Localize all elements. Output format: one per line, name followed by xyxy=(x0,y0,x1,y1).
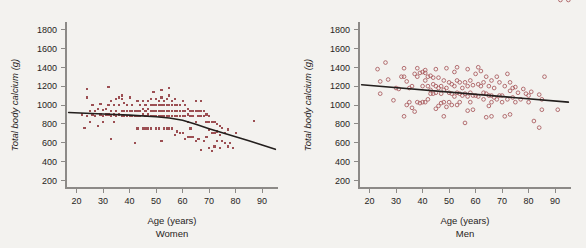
x-tick-label: 70 xyxy=(497,196,507,206)
data-point xyxy=(163,104,165,106)
data-point xyxy=(211,132,213,134)
data-point xyxy=(160,104,162,106)
data-point xyxy=(458,100,462,104)
data-point xyxy=(179,115,181,117)
data-point xyxy=(168,94,170,96)
data-point xyxy=(216,123,218,125)
data-point xyxy=(144,104,146,106)
x-axis-ticks: 2030405060708090 xyxy=(72,188,268,206)
x-tick-label: 50 xyxy=(444,196,454,206)
data-point xyxy=(466,95,470,99)
data-point xyxy=(376,67,380,71)
x-tick-label: 30 xyxy=(391,196,401,206)
data-point xyxy=(174,104,176,106)
y-tick-label: 1800 xyxy=(37,25,57,35)
data-point xyxy=(466,109,470,113)
y-tick-label: 1800 xyxy=(330,25,350,35)
data-point xyxy=(121,98,123,100)
data-point xyxy=(94,115,96,117)
data-point xyxy=(115,98,117,100)
data-point xyxy=(155,98,157,100)
data-point xyxy=(134,142,136,144)
data-point xyxy=(559,0,563,2)
x-tick-label: 40 xyxy=(125,196,135,206)
data-point xyxy=(131,110,133,112)
data-point xyxy=(163,100,165,102)
data-point xyxy=(184,110,186,112)
data-point xyxy=(150,104,152,106)
data-point xyxy=(423,79,427,83)
data-point xyxy=(219,125,221,127)
data-point xyxy=(139,104,141,106)
data-point xyxy=(537,126,541,130)
data-point xyxy=(192,136,194,138)
data-point xyxy=(402,114,406,118)
data-point xyxy=(490,100,494,104)
data-point xyxy=(500,100,504,104)
data-point xyxy=(126,110,128,112)
data-point xyxy=(203,140,205,142)
data-point xyxy=(205,121,207,123)
x-tick-label: 30 xyxy=(98,196,108,206)
data-point xyxy=(166,104,168,106)
data-point xyxy=(166,98,168,100)
data-point xyxy=(415,66,419,70)
chart-panel-women: 2004006008001000120014001600180020304050… xyxy=(0,0,293,248)
data-point xyxy=(487,84,491,88)
data-point xyxy=(434,67,438,71)
data-point xyxy=(184,104,186,106)
data-point xyxy=(484,75,488,79)
data-point xyxy=(123,110,125,112)
data-point xyxy=(129,110,131,112)
figure-container: 2004006008001000120014001600180020304050… xyxy=(0,0,586,248)
data-point xyxy=(110,110,112,112)
data-point xyxy=(450,103,454,107)
data-point xyxy=(166,110,168,112)
data-point xyxy=(474,72,478,76)
data-point xyxy=(211,150,213,152)
data-point xyxy=(83,127,85,129)
data-point xyxy=(174,110,176,112)
data-point xyxy=(184,138,186,140)
data-point xyxy=(476,65,480,69)
data-point xyxy=(216,140,218,142)
data-point xyxy=(110,138,112,140)
data-point xyxy=(442,114,446,118)
data-point xyxy=(126,104,128,106)
x-tick-label: 60 xyxy=(178,196,188,206)
data-point xyxy=(102,115,104,117)
data-point xyxy=(160,140,162,142)
data-point xyxy=(195,100,197,102)
data-point xyxy=(150,127,152,129)
data-point xyxy=(405,80,409,84)
data-point xyxy=(413,110,417,114)
y-tick-label: 400 xyxy=(335,157,350,167)
data-point xyxy=(445,105,449,109)
data-point xyxy=(392,98,396,102)
data-point xyxy=(195,110,197,112)
data-point xyxy=(150,98,152,100)
data-point xyxy=(543,75,547,79)
data-point xyxy=(437,76,441,80)
data-point xyxy=(86,115,88,117)
data-point xyxy=(516,91,520,95)
x-tick-label: 80 xyxy=(524,196,534,206)
data-point xyxy=(152,104,154,106)
data-point xyxy=(136,127,138,129)
data-point xyxy=(134,110,136,112)
data-point xyxy=(147,127,149,129)
data-point xyxy=(567,0,571,2)
data-point xyxy=(232,147,234,149)
x-tick-label: 20 xyxy=(365,196,375,206)
data-points xyxy=(81,86,255,152)
data-point xyxy=(142,100,144,102)
data-point xyxy=(171,100,173,102)
data-point xyxy=(163,127,165,129)
data-point xyxy=(384,61,388,65)
data-point xyxy=(219,134,221,136)
data-point xyxy=(495,97,499,101)
data-point xyxy=(211,121,213,123)
data-point xyxy=(121,94,123,96)
data-point xyxy=(529,90,533,94)
data-point xyxy=(195,121,197,123)
